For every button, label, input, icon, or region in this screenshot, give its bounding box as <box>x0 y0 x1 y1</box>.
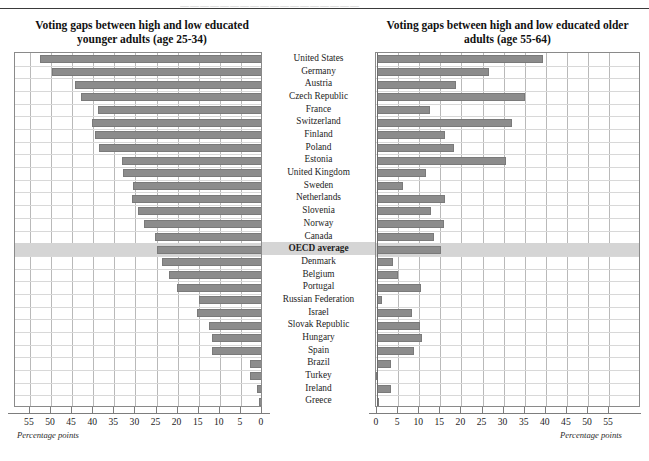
right-axis-tick <box>376 407 377 413</box>
category-label-france: France <box>262 103 375 116</box>
left-chart-row-separator <box>15 256 261 257</box>
left-axis-tick-label: 35 <box>102 416 124 427</box>
right-chart-gridline <box>461 53 462 406</box>
left-chart-plot-area <box>14 52 262 407</box>
category-label-turkey: Turkey <box>262 369 375 382</box>
category-label-netherlands: Netherlands <box>262 191 375 204</box>
left-axis-tick <box>92 407 93 413</box>
right-chart-bar <box>377 233 434 241</box>
right-chart-bar <box>377 309 412 317</box>
right-chart-row-separator <box>376 104 639 105</box>
right-axis-tick-label: 55 <box>597 416 619 427</box>
left-chart-row-separator <box>15 154 261 155</box>
right-panel-title: Voting gaps between high and low educate… <box>375 19 640 46</box>
category-label-oecd-average: OECD average <box>262 242 375 255</box>
right-chart-gridline <box>483 53 484 406</box>
category-label-united-kingdom: United Kingdom <box>262 166 375 179</box>
right-axis-tick <box>439 407 440 413</box>
left-chart-row-separator <box>15 192 261 193</box>
category-label-poland: Poland <box>262 141 375 154</box>
right-chart-gridline <box>609 53 610 406</box>
top-horizontal-rule <box>0 8 649 9</box>
right-axis-tick-label: 45 <box>555 416 577 427</box>
right-axis-tick-label: 50 <box>576 416 598 427</box>
right-chart-row-separator <box>376 180 639 181</box>
right-chart-bar <box>377 284 421 292</box>
left-chart-row-separator <box>15 395 261 396</box>
right-chart-plot-area <box>375 52 640 407</box>
right-chart-row-separator <box>376 357 639 358</box>
left-chart-row-separator <box>15 307 261 308</box>
left-axis-tick <box>29 407 30 413</box>
category-label-norway: Norway <box>262 217 375 230</box>
right-axis-tick-label: 40 <box>534 416 556 427</box>
left-chart-bar <box>209 322 262 330</box>
right-chart-row-separator <box>376 395 639 396</box>
right-axis-tick <box>545 407 546 413</box>
left-axis-caption: Percentage points <box>17 430 79 440</box>
right-chart-row-separator <box>376 345 639 346</box>
left-axis-tick-label: 10 <box>208 416 230 427</box>
left-axis-tick <box>177 407 178 413</box>
left-chart-bar <box>138 207 262 215</box>
right-chart-bar <box>377 144 454 152</box>
right-axis-tick <box>418 407 419 413</box>
right-chart-row-separator <box>376 370 639 371</box>
left-axis-tick-label: 50 <box>39 416 61 427</box>
category-label-sweden: Sweden <box>262 179 375 192</box>
right-chart-bar <box>377 81 456 89</box>
category-label-belgium: Belgium <box>262 268 375 281</box>
left-chart-bar <box>98 106 262 114</box>
left-chart-row-separator <box>15 66 261 67</box>
right-chart-bar <box>377 68 489 76</box>
left-axis-tick <box>219 407 220 413</box>
chart-page: —————————————————— Voting gaps between h… <box>0 0 649 461</box>
right-chart-bar <box>377 334 422 342</box>
right-chart-bar <box>377 207 431 215</box>
right-axis-tick <box>460 407 461 413</box>
right-axis-tick <box>503 407 504 413</box>
right-chart-bar <box>377 55 543 63</box>
left-axis-tick-label: 30 <box>123 416 145 427</box>
right-axis-tick-label: 20 <box>449 416 471 427</box>
right-chart-bar <box>377 347 414 355</box>
left-chart-gridline <box>72 53 73 406</box>
category-label-switzerland: Switzerland <box>262 115 375 128</box>
left-chart-row-separator <box>15 281 261 282</box>
right-axis-tick <box>482 407 483 413</box>
left-chart-bar <box>122 157 262 165</box>
right-axis-tick-label: 35 <box>513 416 535 427</box>
right-chart-bar <box>377 182 403 190</box>
left-chart-bar <box>250 372 262 380</box>
left-axis-tick <box>156 407 157 413</box>
category-label-denmark: Denmark <box>262 255 375 268</box>
left-axis-tick <box>113 407 114 413</box>
left-chart-row-separator <box>15 180 261 181</box>
left-chart-row-separator <box>15 370 261 371</box>
left-chart-row-separator <box>15 167 261 168</box>
left-panel-title: Voting gaps between high and low educate… <box>14 19 270 46</box>
category-label-united-states: United States <box>262 52 375 65</box>
left-chart-bar <box>199 296 262 304</box>
right-axis-tick-label: 10 <box>407 416 429 427</box>
left-chart-bar <box>250 360 262 368</box>
left-chart-bar <box>123 169 262 177</box>
right-chart-row-separator <box>376 319 639 320</box>
right-chart-row-separator <box>376 332 639 333</box>
left-chart-row-separator <box>15 319 261 320</box>
right-chart-bar <box>377 271 398 279</box>
category-label-column: United StatesGermanyAustriaCzech Republi… <box>262 52 375 407</box>
left-chart-bar <box>157 246 263 254</box>
left-chart-row-separator <box>15 332 261 333</box>
right-chart-bar <box>377 93 525 101</box>
right-chart-row-separator <box>376 205 639 206</box>
left-chart-bar <box>169 271 262 279</box>
left-chart-row-separator <box>15 205 261 206</box>
left-axis-tick-label: 25 <box>145 416 167 427</box>
right-axis-tick <box>608 407 609 413</box>
right-axis-tick-label: 5 <box>386 416 408 427</box>
left-axis-tick <box>134 407 135 413</box>
left-axis-tick <box>198 407 199 413</box>
right-chart-gridline <box>504 53 505 406</box>
left-chart-bar <box>212 347 262 355</box>
